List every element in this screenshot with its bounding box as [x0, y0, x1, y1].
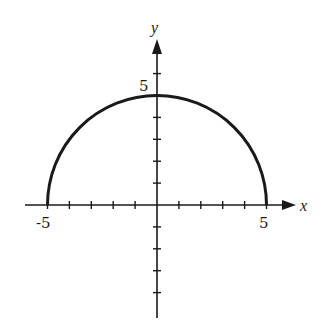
- x-axis-arrow-icon: [282, 200, 296, 210]
- y-axis-arrow-icon: [152, 39, 162, 54]
- x-axis-label: x: [299, 197, 307, 214]
- y-tick-label-pos5: 5: [139, 77, 149, 95]
- semicircle-chart: y x -5 5 5: [0, 0, 324, 324]
- y-axis-label: y: [149, 19, 159, 37]
- x-tick-label-pos5: 5: [259, 214, 269, 232]
- x-tick-label-neg5: -5: [36, 214, 51, 232]
